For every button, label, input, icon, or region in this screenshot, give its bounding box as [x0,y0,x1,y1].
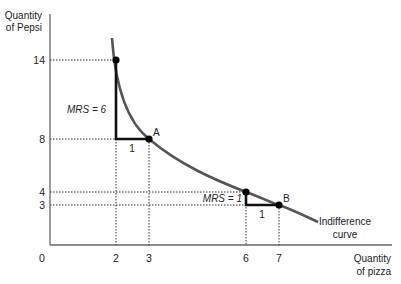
origin-label: 0 [39,252,45,264]
y-tick-4: 4 [39,186,45,198]
guide-lines [50,60,279,245]
indifference-curve-chart: Quantity of Pepsi Quantity of pizza 0 2 … [0,0,401,284]
marked-points [112,56,282,208]
y-tick-14: 14 [33,54,45,66]
point-a [145,135,152,142]
y-axis-label-2: of Pepsi [6,22,42,33]
point-6-4 [242,188,249,195]
x-tick-2: 2 [113,252,119,264]
x-axis-label-2: of pizza [357,266,392,277]
point-a-label: A [153,127,160,138]
run-label-a: 1 [129,143,135,154]
y-tick-8: 8 [39,133,45,145]
point-14 [112,56,119,63]
run-label-b: 1 [259,209,265,220]
x-tick-3: 3 [146,252,152,264]
x-axis-label-1: Quantity [354,253,391,264]
curve-label-2: curve [333,229,358,240]
mrs-6-label: MRS = 6 [67,104,107,115]
x-tick-6: 6 [243,252,249,264]
y-tick-3: 3 [39,199,45,211]
point-b [275,201,282,208]
point-b-label: B [283,193,290,204]
mrs-6-triangle [116,60,149,139]
x-tick-7: 7 [276,252,282,264]
y-axis-label-1: Quantity [5,10,42,21]
curve-label-1: Indifference [319,216,372,227]
mrs-1-label: MRS = 1 [203,193,242,204]
